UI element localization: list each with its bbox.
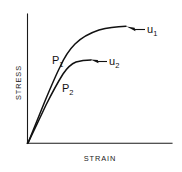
p2-label-base: P (62, 82, 69, 94)
u1-label-subscript: 1 (153, 29, 157, 38)
stress-strain-figure: STRESS STRAIN P1 P2 u1 u2 (0, 0, 182, 172)
stress-strain-chart-canvas: STRESS STRAIN P1 P2 u1 u2 (0, 0, 182, 172)
p1-label-base: P (52, 54, 59, 66)
p1-label-subscript: 1 (59, 60, 63, 69)
stress-axis-title: STRESS (14, 65, 23, 100)
p2-label-subscript: 2 (69, 88, 73, 97)
strain-axis-title: STRAIN (84, 154, 117, 163)
u2-label-subscript: 2 (115, 61, 119, 70)
